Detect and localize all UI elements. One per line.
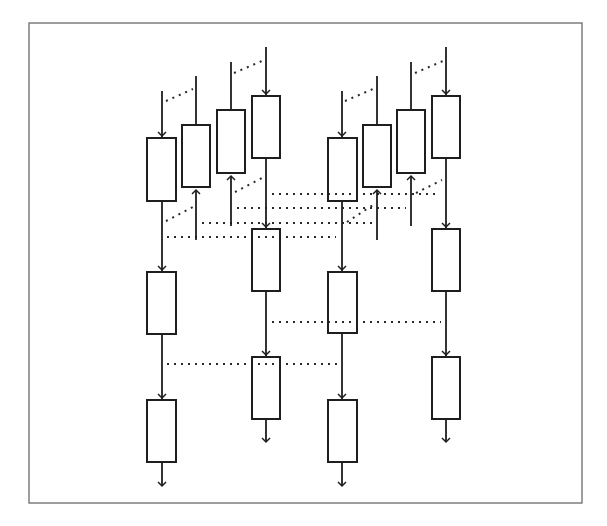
group-2-col-b-stage-box-0 xyxy=(363,125,391,187)
group-2-col-d-stage-box-0 xyxy=(432,96,460,158)
dotted-link-top-diag-1a xyxy=(166,89,193,101)
group-2-col-a-stage-box-1 xyxy=(328,272,357,333)
group-2-col-d-stage-box-1 xyxy=(432,229,460,291)
outer-frame xyxy=(29,23,582,503)
group-2-col-a-stage-box-0 xyxy=(328,138,357,201)
group-1-col-b-stage-box-0 xyxy=(182,125,210,187)
dotted-link-top-diag-2a xyxy=(345,89,373,101)
dotted-link-mid-diag-1c xyxy=(235,178,262,192)
diagram-canvas xyxy=(0,0,607,526)
group-1-col-d-stage-box-1 xyxy=(252,229,280,291)
dotted-link-top-diag-2c xyxy=(415,61,443,73)
group-1-col-a-stage-box-2 xyxy=(147,400,176,462)
group-2-col-c-stage-box-0 xyxy=(397,110,425,173)
group-1-col-d-stage-box-0 xyxy=(252,96,280,158)
dotted-link-top-diag-1c xyxy=(234,61,262,73)
group-1-col-d-stage-box-2 xyxy=(252,357,280,419)
group-2-col-d-stage-box-2 xyxy=(432,357,460,419)
pipeline-diagram xyxy=(0,0,607,526)
group-2-col-a-stage-box-2 xyxy=(328,400,357,462)
dotted-link-mid-diag-1a xyxy=(166,207,193,221)
group-1-col-c-stage-box-0 xyxy=(217,110,245,173)
dotted-link-mid-diag-2c xyxy=(416,180,442,193)
group-1-col-a-stage-box-0 xyxy=(147,138,176,201)
group-1-col-a-stage-box-1 xyxy=(147,272,176,334)
